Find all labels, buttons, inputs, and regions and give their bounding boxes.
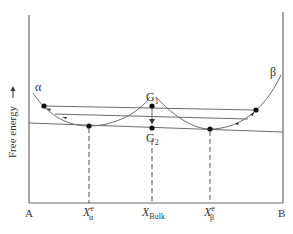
y-axis-label: Free energy <box>6 105 18 158</box>
g2-point <box>149 125 154 130</box>
g1-to-g2-arrowhead <box>149 119 155 124</box>
x-beta-equilibrium-point <box>207 126 212 131</box>
x-axis-right-label: B <box>278 207 285 219</box>
x-alpha-e-tick-label: Xeα <box>82 204 94 222</box>
y-axis-label-text: Free energy <box>6 105 18 158</box>
free-energy-diagram: α β G1 G2 Free energy A B Xeα XBulk Xeβ <box>0 0 293 234</box>
g1-label: G1 <box>146 90 159 106</box>
x-beta-e-tick-label: Xeβ <box>203 204 215 222</box>
alpha-phase-label: α <box>35 80 42 94</box>
x-axis-left-label: A <box>25 207 33 219</box>
x-alpha-equilibrium-point <box>86 123 91 128</box>
alpha-upper-point <box>41 103 46 108</box>
arrow-alpha-lower <box>62 117 67 119</box>
beta-upper-point <box>253 107 258 112</box>
x-bulk-tick-label: XBulk <box>141 205 165 221</box>
beta-free-energy-curve <box>156 75 281 129</box>
beta-phase-label: β <box>270 65 276 79</box>
up-arrow-icon <box>11 86 16 98</box>
g2-label: G2 <box>146 131 159 147</box>
common-tangent-line <box>29 123 283 132</box>
